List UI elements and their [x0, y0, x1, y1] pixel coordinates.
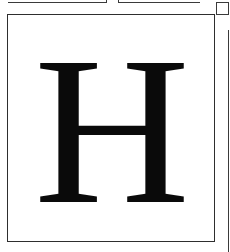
top-left-rule-tick — [106, 0, 107, 3]
top-left-rule — [8, 2, 107, 3]
glyph-character: H — [6, 15, 218, 243]
top-right-rule-tick — [118, 0, 119, 3]
top-right-rule — [118, 2, 200, 3]
corner-square — [216, 2, 229, 15]
right-partial-rule — [228, 30, 229, 252]
glyph-card[interactable]: H — [7, 14, 215, 242]
